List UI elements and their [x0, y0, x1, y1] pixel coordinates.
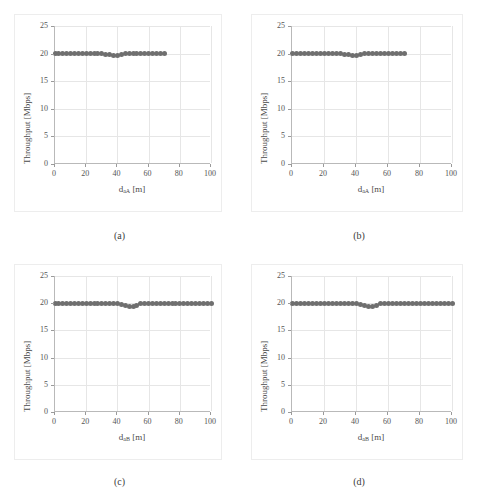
x-tick-label: 0 [276, 169, 306, 179]
caption-d: (d) [239, 476, 479, 488]
x-tick-label: 0 [39, 169, 69, 179]
tick-mark-x [323, 164, 324, 167]
tick-mark-x [116, 164, 117, 167]
x-tick-label: 80 [164, 417, 194, 427]
tick-mark-x [179, 164, 180, 167]
x-tick-label: 60 [372, 417, 402, 427]
y-axis-label: Throughput [Mbps] [259, 341, 269, 412]
x-tick-label: 80 [404, 169, 434, 179]
y-tick-label: 25 [26, 272, 48, 280]
plot-area [291, 276, 451, 412]
y-tick-label: 20 [26, 299, 48, 307]
plot-wrap-d: 0204060801000510152025Throughput [Mbps]d… [251, 264, 463, 460]
plot-area [54, 26, 210, 164]
gridline-vertical [211, 276, 212, 411]
y-tick-label: 25 [26, 22, 48, 30]
tick-mark-y [51, 54, 54, 55]
tick-mark-x [210, 412, 211, 415]
x-axis-label-unit: [m] [369, 432, 384, 442]
tick-mark-y [288, 81, 291, 82]
x-tick-label: 0 [39, 417, 69, 427]
tick-mark-x [54, 412, 55, 415]
x-axis-label: daB [m] [54, 432, 210, 444]
tick-mark-x [451, 412, 452, 415]
tick-mark-y [288, 276, 291, 277]
tick-mark-x [291, 164, 292, 167]
series-line [55, 276, 210, 411]
tick-mark-y [51, 358, 54, 359]
tick-mark-x [451, 164, 452, 167]
tick-mark-x [210, 164, 211, 167]
y-axis-label: Throughput [Mbps] [22, 93, 32, 164]
tick-mark-y [288, 412, 291, 413]
tick-mark-x [419, 164, 420, 167]
plot-area [291, 26, 451, 164]
x-tick-label: 20 [70, 417, 100, 427]
plot-area [54, 276, 210, 412]
plot-wrap-c: 0204060801000510152025Throughput [Mbps]d… [14, 264, 222, 460]
tick-mark-y [288, 26, 291, 27]
subfigure-b: 0204060801000510152025Throughput [Mbps]d… [239, 0, 479, 254]
x-tick-label: 80 [164, 169, 194, 179]
tick-mark-x [355, 412, 356, 415]
figure-grid: 0204060801000510152025Throughput [Mbps]d… [0, 0, 479, 499]
x-axis-label: daA [m] [54, 184, 210, 196]
tick-mark-y [288, 358, 291, 359]
tick-mark-x [387, 164, 388, 167]
x-tick-label: 60 [133, 417, 163, 427]
y-tick-label: 25 [263, 22, 285, 30]
x-tick-label: 40 [340, 417, 370, 427]
subfigure-c: 0204060801000510152025Throughput [Mbps]d… [0, 254, 239, 499]
tick-mark-x [387, 412, 388, 415]
x-tick-label: 100 [195, 169, 225, 179]
series-line [55, 26, 210, 163]
tick-mark-y [51, 164, 54, 165]
tick-mark-y [288, 109, 291, 110]
tick-mark-y [288, 136, 291, 137]
data-point [209, 301, 214, 306]
caption-c: (c) [0, 476, 239, 488]
y-tick-label: 15 [26, 77, 48, 85]
caption-a: (a) [0, 230, 239, 242]
y-tick-label: 15 [263, 326, 285, 334]
tick-mark-y [51, 109, 54, 110]
x-axis-label: daB [m] [291, 432, 451, 444]
y-tick-label: 20 [26, 50, 48, 58]
series-line [292, 276, 451, 411]
plot-wrap-b: 0204060801000510152025Throughput [Mbps]d… [251, 14, 463, 212]
y-tick-label: 15 [263, 77, 285, 85]
tick-mark-y [51, 330, 54, 331]
x-tick-label: 20 [308, 417, 338, 427]
subfigure-a: 0204060801000510152025Throughput [Mbps]d… [0, 0, 239, 254]
x-tick-label: 100 [436, 417, 466, 427]
series-line [292, 26, 451, 163]
tick-mark-y [288, 164, 291, 165]
tick-mark-y [51, 412, 54, 413]
tick-mark-y [51, 303, 54, 304]
y-tick-label: 25 [263, 272, 285, 280]
data-point [402, 51, 407, 56]
tick-mark-x [116, 412, 117, 415]
tick-mark-y [288, 330, 291, 331]
x-tick-label: 20 [70, 169, 100, 179]
y-tick-label: 20 [263, 299, 285, 307]
x-axis-label-subscript: aB [362, 436, 369, 442]
x-axis-label-unit: [m] [130, 184, 145, 194]
data-point [162, 51, 167, 56]
x-axis-label-subscript: aB [123, 436, 130, 442]
x-axis-label-unit: [m] [130, 432, 145, 442]
x-tick-label: 100 [436, 169, 466, 179]
tick-mark-x [148, 164, 149, 167]
data-point [450, 301, 455, 306]
gridline-vertical [211, 26, 212, 163]
tick-mark-y [288, 385, 291, 386]
y-axis-label: Throughput [Mbps] [259, 93, 269, 164]
tick-mark-y [51, 26, 54, 27]
y-tick-label: 15 [26, 326, 48, 334]
tick-mark-y [51, 81, 54, 82]
gridline-vertical [452, 276, 453, 411]
tick-mark-x [355, 164, 356, 167]
tick-mark-x [148, 412, 149, 415]
x-tick-label: 60 [133, 169, 163, 179]
tick-mark-y [288, 303, 291, 304]
